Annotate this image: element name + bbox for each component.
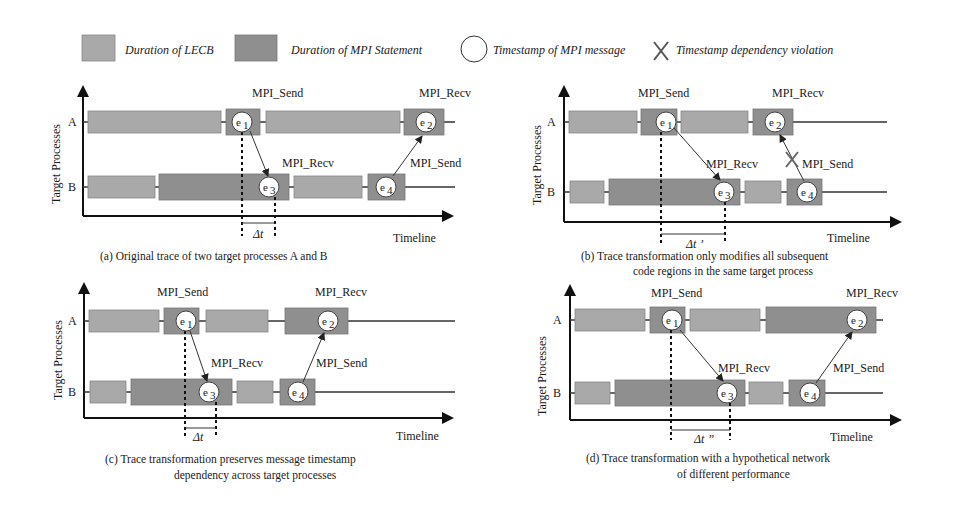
- lecb-swatch: [82, 35, 115, 61]
- caption-c-line1: (c) Trace transformation preserves messa…: [105, 453, 356, 466]
- legend-mpi-label: Duration of MPI Statement: [290, 43, 423, 57]
- event-e1: e: [236, 116, 241, 128]
- caption-a: (a) Original trace of two target process…: [100, 250, 328, 263]
- svg-text:1: 1: [187, 318, 193, 330]
- svg-text:Target Processes: Target Processes: [51, 320, 65, 400]
- svg-text:4: 4: [811, 390, 817, 402]
- legend: Duration of LECB Duration of MPI Stateme…: [82, 35, 833, 62]
- svg-text:3: 3: [725, 189, 731, 201]
- svg-text:B: B: [547, 185, 555, 199]
- svg-text:4: 4: [387, 184, 393, 196]
- svg-text:MPI_Send: MPI_Send: [651, 286, 702, 300]
- svg-text:B: B: [553, 386, 561, 400]
- event-e3: e: [263, 181, 268, 193]
- svg-text:e: e: [666, 314, 671, 326]
- svg-text:e: e: [180, 315, 185, 327]
- svg-text:MPI_Send: MPI_Send: [833, 361, 884, 375]
- panel-b: Target Processes A B e 1 e 2 e 3 e 4 MPI…: [530, 86, 900, 278]
- svg-text:MPI_Recv: MPI_Recv: [846, 286, 898, 300]
- process-a-label: A: [68, 115, 77, 129]
- svg-text:MPI_Recv: MPI_Recv: [211, 356, 263, 370]
- panel-c: Target Processes A B e 1 e 2 e 3 e 4 MPI…: [51, 284, 455, 482]
- caption-b-line1: (b) Trace transformation only modifies a…: [581, 250, 829, 263]
- mpi-swatch: [235, 35, 277, 61]
- svg-text:Target Processes: Target Processes: [535, 336, 549, 416]
- svg-text:1: 1: [673, 317, 679, 329]
- svg-text:2: 2: [329, 318, 335, 330]
- violation-cross-icon: [786, 152, 798, 167]
- event-e4: e: [380, 181, 385, 193]
- svg-text:Timeline: Timeline: [830, 430, 873, 444]
- svg-text:B: B: [68, 385, 76, 399]
- svg-text:4: 4: [808, 189, 814, 201]
- delta-t-label: Δt: [252, 227, 264, 241]
- svg-text:e: e: [292, 386, 297, 398]
- svg-text:3: 3: [270, 184, 276, 196]
- svg-text:3: 3: [210, 389, 216, 401]
- svg-text:e: e: [203, 386, 208, 398]
- svg-text:e: e: [851, 314, 856, 326]
- svg-text:MPI_Send: MPI_Send: [316, 356, 367, 370]
- caption-b-line2: code regions in the same target process: [633, 265, 813, 278]
- y-axis-label: Target Processes: [49, 124, 63, 204]
- svg-text:e: e: [718, 186, 723, 198]
- svg-text:A: A: [553, 313, 562, 327]
- svg-text:Δt ’: Δt ’: [685, 237, 703, 251]
- panel-a: Target Processes A B e 1 e 2 e 3 e 4 MPI…: [49, 86, 471, 263]
- svg-text:e: e: [660, 116, 665, 128]
- svg-text:Timeline: Timeline: [827, 231, 870, 245]
- svg-text:2: 2: [776, 119, 782, 131]
- svg-text:1: 1: [667, 119, 673, 131]
- svg-text:Target Processes: Target Processes: [530, 125, 544, 205]
- svg-text:MPI_Send: MPI_Send: [802, 157, 853, 171]
- trace-transformation-figure: Duration of LECB Duration of MPI Stateme…: [0, 0, 955, 512]
- svg-text:MPI_Send: MPI_Send: [410, 156, 461, 170]
- violation-cross-icon: [654, 42, 668, 60]
- legend-lecb-label: Duration of LECB: [124, 43, 214, 57]
- panel-d: Target Processes A B e 1 e 2 e 3 e 4 MPI…: [535, 286, 900, 481]
- timestamp-circle-icon: [461, 36, 487, 62]
- svg-text:A: A: [547, 115, 556, 129]
- svg-text:MPI_Recv: MPI_Recv: [419, 86, 471, 100]
- svg-text:Timeline: Timeline: [396, 429, 439, 443]
- svg-text:MPI_Recv: MPI_Recv: [718, 361, 770, 375]
- svg-text:e: e: [322, 315, 327, 327]
- svg-text:MPI_Recv: MPI_Recv: [315, 285, 367, 299]
- svg-text:A: A: [68, 314, 77, 328]
- svg-text:2: 2: [427, 119, 433, 131]
- svg-text:MPI_Recv: MPI_Recv: [772, 86, 824, 100]
- svg-text:MPI_Send: MPI_Send: [157, 285, 208, 299]
- svg-text:e: e: [721, 387, 726, 399]
- legend-timestamp-label: Timestamp of MPI message: [493, 43, 626, 57]
- svg-text:3: 3: [728, 390, 734, 402]
- svg-text:Δt ”: Δt ”: [693, 432, 714, 446]
- svg-text:Δt: Δt: [192, 430, 204, 444]
- svg-text:MPI_Recv: MPI_Recv: [706, 157, 758, 171]
- svg-text:MPI_Send: MPI_Send: [252, 86, 303, 100]
- svg-text:MPI_Send: MPI_Send: [638, 86, 689, 100]
- caption-d-line2: of different performance: [677, 468, 790, 481]
- event-e2: e: [420, 116, 425, 128]
- timeline-label: Timeline: [393, 231, 436, 245]
- caption-c-line2: dependency across target processes: [174, 469, 337, 482]
- svg-text:e: e: [769, 116, 774, 128]
- process-b-label: B: [68, 180, 76, 194]
- svg-text:e: e: [804, 387, 809, 399]
- svg-text:4: 4: [299, 389, 305, 401]
- svg-text:MPI_Recv: MPI_Recv: [282, 156, 334, 170]
- svg-text:2: 2: [858, 317, 864, 329]
- svg-text:1: 1: [243, 119, 249, 131]
- legend-violation-label: Timestamp dependency violation: [676, 43, 833, 57]
- caption-d-line1: (d) Trace transformation with a hypothet…: [586, 452, 830, 465]
- svg-text:e: e: [801, 186, 806, 198]
